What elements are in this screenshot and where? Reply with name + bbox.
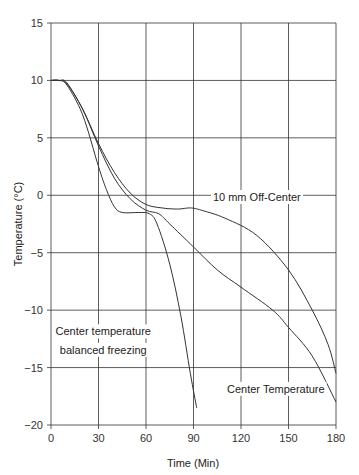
y-axis-label: Temperature (°C) xyxy=(12,182,24,266)
annotation-label: Center Temperature xyxy=(227,383,325,395)
temperature-chart: 151050−5−10−15−20 0306090120150180 10 mm… xyxy=(0,0,359,475)
x-axis-label: Time (Min) xyxy=(167,457,219,469)
x-tick-label: 30 xyxy=(92,432,104,444)
y-tick-label: −15 xyxy=(24,362,43,374)
y-axis-ticks: 151050−5−10−15−20 xyxy=(24,17,43,431)
y-tick-label: −5 xyxy=(30,247,43,259)
annotation-label: balanced freezing xyxy=(60,344,147,356)
x-tick-label: 150 xyxy=(279,432,297,444)
x-tick-label: 0 xyxy=(48,432,54,444)
y-tick-label: 0 xyxy=(37,189,43,201)
y-tick-label: 15 xyxy=(31,17,43,29)
x-tick-label: 90 xyxy=(187,432,199,444)
y-tick-label: −10 xyxy=(24,304,43,316)
x-axis-ticks: 0306090120150180 xyxy=(48,432,345,444)
annotation-label: Center temperature xyxy=(56,325,151,337)
y-tick-label: 5 xyxy=(37,132,43,144)
y-tick-label: −20 xyxy=(24,419,43,431)
annotation-label: 10 mm Off-Center xyxy=(213,191,301,203)
y-tick-label: 10 xyxy=(31,74,43,86)
x-tick-label: 180 xyxy=(327,432,345,444)
grid-lines xyxy=(47,23,336,429)
x-tick-label: 60 xyxy=(140,432,152,444)
curve-annotations: 10 mm Off-CenterCenter temperaturebalanc… xyxy=(54,190,327,396)
x-tick-label: 120 xyxy=(232,432,250,444)
curve-center-temperature-balanced-freezing xyxy=(51,80,197,408)
